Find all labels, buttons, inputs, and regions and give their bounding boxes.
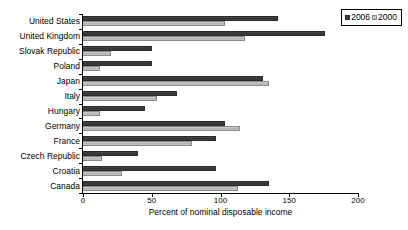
bar-slovak-republic-2000 [83,51,111,56]
category-label-germany: Germany [0,121,80,131]
bar-italy-2000 [83,96,157,101]
category-label-canada: Canada [0,181,80,191]
y-axis-tick [79,59,82,60]
y-axis-tick [79,163,82,164]
legend-label-2000: 2000 [378,13,397,22]
legend-swatch-2000-icon [372,15,377,20]
x-axis-tick-label-0: 0 [81,196,85,206]
bar-japan-2000 [83,81,269,86]
x-axis-line [82,193,359,194]
x-axis-title: Percent of nominal disposable income [83,207,358,217]
category-label-slovak-republic: Slovak Republic [0,46,80,56]
legend-entry-2006: 2006 [345,13,370,22]
category-label-italy: Italy [0,91,80,101]
category-label-france: France [0,136,80,146]
y-axis-tick [79,133,82,134]
y-axis-tick [79,29,82,30]
x-axis-tick-label-200: 200 [351,196,364,206]
plot-area [83,14,358,193]
category-label-united-states: United States [0,16,80,26]
category-label-croatia: Croatia [0,166,80,176]
y-axis-tick [79,104,82,105]
bar-poland-2000 [83,66,100,71]
y-axis-tick [79,44,82,45]
y-axis-tick [79,89,82,90]
bar-united-kingdom-2000 [83,36,245,41]
bar-chart-figure: United StatesUnited KingdomSlovak Republ… [0,0,408,230]
bar-france-2000 [83,141,192,146]
y-axis-tick [79,148,82,149]
x-axis-tick-label-150: 150 [283,196,296,206]
bar-croatia-2000 [83,171,122,176]
bar-united-states-2000 [83,21,225,26]
x-axis-tick-label-50: 50 [147,196,156,206]
category-label-united-kingdom: United Kingdom [0,31,80,41]
legend-label-2006: 2006 [351,13,370,22]
category-label-poland: Poland [0,61,80,71]
legend-swatch-2006-icon [345,15,350,20]
y-axis-tick [79,118,82,119]
category-axis-labels: United StatesUnited KingdomSlovak Republ… [0,14,80,193]
y-axis-tick [79,14,82,15]
bar-canada-2000 [83,186,238,191]
y-axis-tick [79,74,82,75]
bar-hungary-2000 [83,111,100,116]
y-axis-tick [79,178,82,179]
legend-entry-2000: 2000 [372,13,397,22]
chart-legend: 2006 2000 [341,9,402,26]
bar-czech-republic-2000 [83,156,102,161]
category-label-hungary: Hungary [0,106,80,116]
category-label-czech-republic: Czech Republic [0,151,80,161]
category-label-japan: Japan [0,76,80,86]
bar-germany-2000 [83,126,240,131]
x-axis-tick-label-100: 100 [214,196,227,206]
